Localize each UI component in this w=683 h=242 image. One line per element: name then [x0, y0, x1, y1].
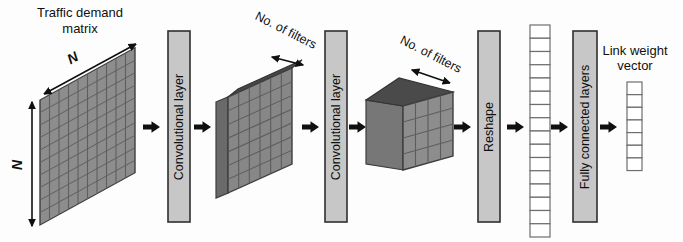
- conv-layer-1-label: Convolutional layer: [172, 74, 186, 180]
- vector-cell: [530, 91, 550, 104]
- conv-layer-2-bar: Convolutional layer: [325, 31, 347, 222]
- fully-connected-label: Fully connected layers: [578, 65, 592, 189]
- vector-cell: [627, 158, 642, 171]
- vector-cell: [530, 52, 550, 65]
- flow-arrow-4: [349, 121, 366, 133]
- vector-cell: [530, 224, 550, 237]
- cube-right-grid: [403, 92, 453, 170]
- conv2-output-cube: [366, 78, 453, 170]
- matrix-width-label: N: [64, 48, 81, 67]
- flow-arrow-5: [454, 121, 471, 133]
- conv1-output-slab: [216, 60, 302, 198]
- traffic-matrix-grid: [40, 48, 135, 225]
- flow-arrow-3: [302, 121, 319, 133]
- traffic-matrix-title-line1: Traffic demand: [37, 5, 123, 20]
- cube-left-face: [366, 100, 403, 170]
- slab-side-face: [216, 97, 228, 198]
- conv-layer-2-label: Convolutional layer: [329, 74, 343, 180]
- vector-cell: [530, 184, 550, 197]
- flow-arrow-1: [143, 121, 160, 133]
- vector-cell: [530, 158, 550, 171]
- cnn-architecture-diagram: Traffic demand matrix N N Convolutional …: [0, 0, 683, 242]
- vector-cell: [530, 211, 550, 224]
- vector-cell: [627, 95, 642, 108]
- reshape-bar: Reshape: [478, 31, 500, 222]
- reshaped-vector: [530, 25, 550, 237]
- link-weight-vector: [627, 82, 642, 171]
- reshape-label: Reshape: [482, 102, 496, 152]
- flow-arrow-8: [600, 121, 617, 133]
- flow-arrow-2: [194, 121, 211, 133]
- vector-cell: [530, 38, 550, 51]
- link-weight-title-line1: Link weight: [602, 43, 667, 58]
- vector-cell: [530, 118, 550, 131]
- conv1-filters-label: No. of filters: [253, 9, 319, 52]
- vector-cell: [627, 145, 642, 158]
- vector-cell: [627, 120, 642, 133]
- vector-cell: [530, 25, 550, 38]
- fully-connected-bar: Fully connected layers: [573, 31, 597, 222]
- conv-layer-1-bar: Convolutional layer: [168, 31, 190, 222]
- slab-front-grid: [228, 68, 292, 193]
- traffic-matrix-title-line2: matrix: [62, 21, 98, 36]
- vector-cell: [627, 133, 642, 146]
- vector-cell: [530, 105, 550, 118]
- vector-cell: [530, 144, 550, 157]
- vector-cell: [627, 107, 642, 120]
- vector-cell: [530, 131, 550, 144]
- vector-cell: [530, 171, 550, 184]
- diagram-canvas: Traffic demand matrix N N Convolutional …: [0, 0, 683, 242]
- vector-cell: [530, 78, 550, 91]
- vector-cell: [530, 197, 550, 210]
- matrix-height-label: N: [9, 159, 25, 170]
- vector-cell: [627, 82, 642, 95]
- conv2-depth-dimension-arrow: [412, 70, 450, 83]
- conv2-filters-label: No. of filters: [398, 33, 464, 76]
- flow-arrow-6: [507, 121, 524, 133]
- vector-cell: [530, 65, 550, 78]
- link-weight-title-line2: vector: [617, 58, 653, 73]
- flow-arrow-7: [551, 121, 568, 133]
